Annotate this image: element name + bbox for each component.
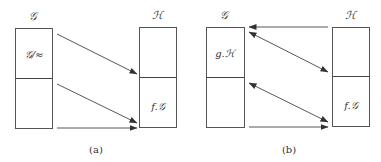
arrow-bidirectional-bottom [249,83,328,122]
caption-a: (a) [89,144,103,155]
diagram-a: 𝒢 𝒢/≈ ℋ f.𝒢 (a) [16,9,177,155]
arrow-divider-to-bottom [57,84,137,123]
right-bottom-label: f.𝒢 [343,100,360,111]
left-set-label: 𝒢 [29,10,39,23]
diagram-b: 𝒢 g.ℋ ℋ f.𝒢 (b) [207,9,370,155]
diagram-canvas: 𝒢 𝒢/≈ ℋ f.𝒢 (a) 𝒢 g.ℋ ℋ f.𝒢 (b) [0,0,381,162]
arrow-bidirectional-top [249,32,328,72]
left-set-label: 𝒢 [220,9,230,22]
right-set-label: ℋ [345,9,358,22]
right-set-label: ℋ [152,9,165,22]
arrow-top-to-divider [57,34,137,74]
right-bottom-label: f.𝒢 [150,101,167,112]
caption-b: (b) [282,144,296,155]
left-top-label: g.ℋ [215,48,237,59]
left-top-label: 𝒢/≈ [25,49,44,60]
